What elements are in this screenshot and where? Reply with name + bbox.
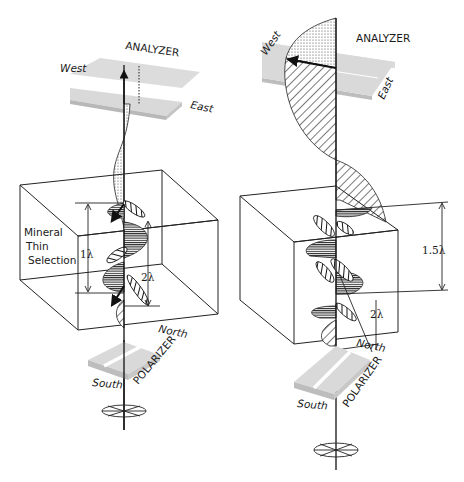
left-thickness-label: 2λ (141, 271, 155, 283)
left-south-label: South (92, 376, 123, 391)
left-west-label: West (60, 62, 87, 74)
right-upper-wave-hatched (285, 58, 336, 160)
left-box-label-3: Selection (28, 254, 76, 266)
left-helix-waves (103, 198, 152, 328)
right-north-label: North (356, 336, 387, 354)
right-south-label: South (297, 397, 328, 412)
left-east-label: East (190, 98, 216, 115)
right-analyzer-label: ANALYZER (356, 32, 410, 44)
right-panel: 1.5λ 2λ ANALYZER West East North South P… (240, 18, 448, 470)
left-analyzer-label: ANALYZER (125, 39, 180, 58)
left-box-label-1: Mineral (24, 226, 63, 238)
polarized-light-diagram: Mineral Thin Selection 1λ 2λ ANALYZER We… (0, 0, 464, 482)
left-retardation-label: 1λ (80, 248, 94, 260)
left-panel: Mineral Thin Selection 1λ 2λ ANALYZER We… (20, 39, 218, 430)
right-retardation-label: 1.5λ (422, 244, 446, 256)
left-analyzer-plate (70, 58, 200, 120)
right-thickness-label: 2λ (370, 308, 384, 320)
left-box-label-2: Thin (25, 240, 49, 252)
